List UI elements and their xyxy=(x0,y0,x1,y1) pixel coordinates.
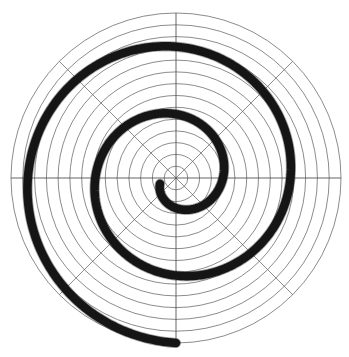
figure-background xyxy=(0,0,349,357)
polar-chart-figure xyxy=(0,0,349,357)
polar-plot-canvas xyxy=(0,0,349,357)
